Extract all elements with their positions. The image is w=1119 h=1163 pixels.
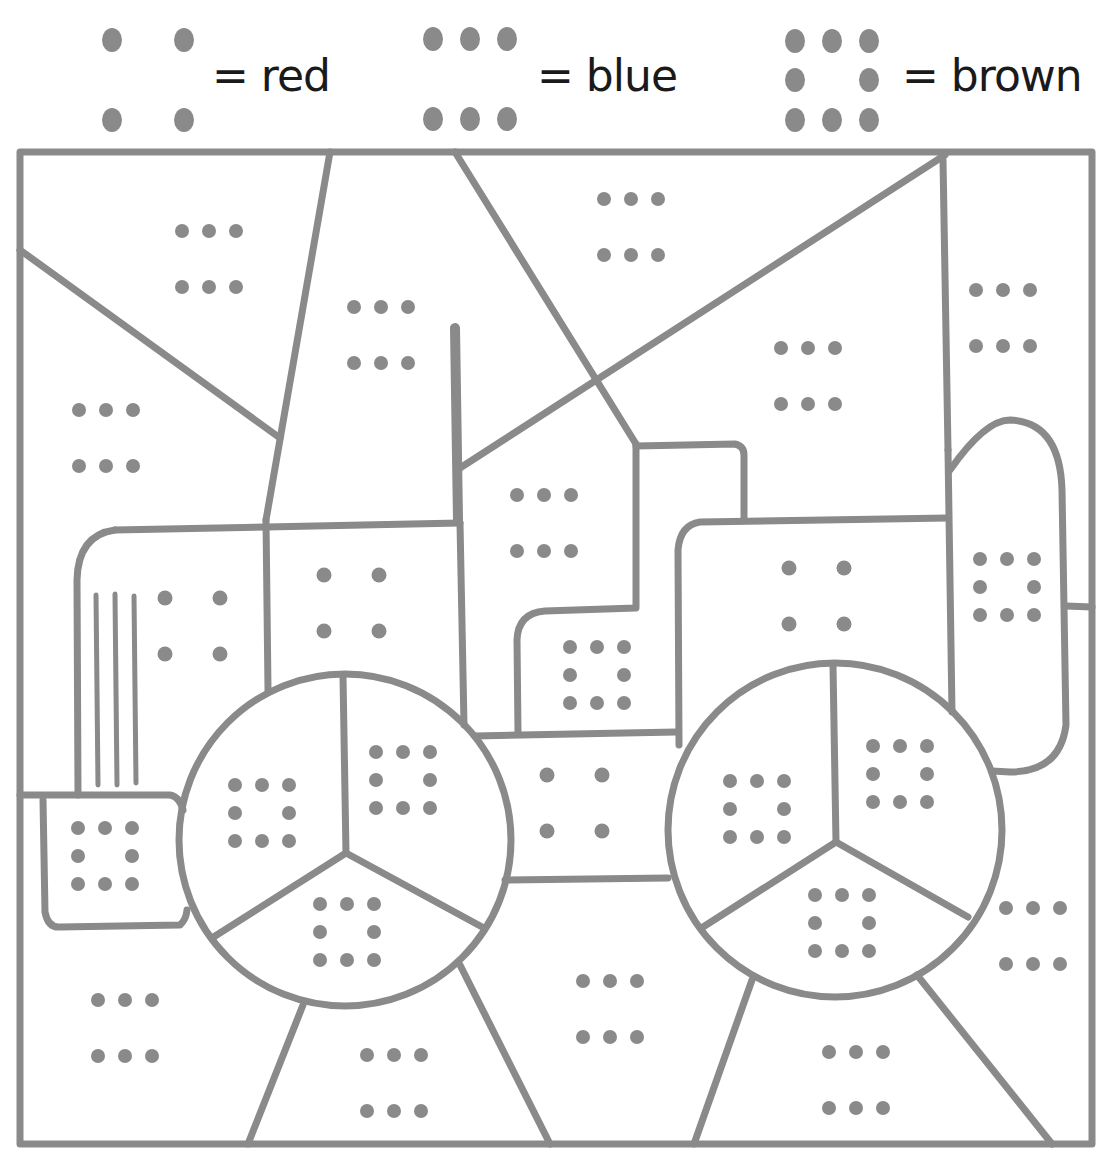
- tractor-coloring-drawing: [0, 0, 1119, 1163]
